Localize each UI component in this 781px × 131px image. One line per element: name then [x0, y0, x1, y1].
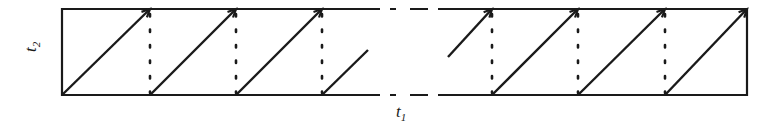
axis-label-t2: t2 [22, 42, 42, 52]
break-marks [362, 9, 448, 95]
axis-label-t1-subscript: 1 [401, 111, 407, 123]
diagonal-line-4 [448, 9, 492, 57]
diagonal-line-1 [150, 9, 236, 95]
diagonal-line-2 [236, 9, 322, 95]
diagonal-line-6 [578, 9, 665, 95]
diagonal-line-5 [492, 9, 578, 95]
strip-borders [62, 8, 747, 96]
diagonal-line-7 [665, 9, 747, 95]
strip-diagram-svg [0, 0, 781, 131]
diagonal-line-3 [322, 50, 368, 95]
axis-label-t2-text: t [21, 47, 40, 52]
diagonal-arrows [62, 9, 747, 95]
diagonal-line-0 [62, 9, 150, 95]
axis-label-t2-subscript: 2 [30, 42, 42, 48]
axis-label-t1: t1 [396, 103, 406, 123]
figure-container: t2 t1 [0, 0, 781, 131]
dotted-vertical-lines [150, 14, 665, 93]
